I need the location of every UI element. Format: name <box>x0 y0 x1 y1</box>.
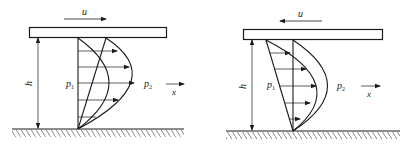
height-label: h <box>23 81 34 86</box>
ground-hatch <box>12 130 184 137</box>
pressure-p2-label: p2 <box>336 80 345 92</box>
couette-linear-profile <box>78 38 106 129</box>
velocity-profile-arrows <box>78 51 134 117</box>
figure-left: u h p1 p2 <box>12 6 184 137</box>
pressure-p1-label: p1 <box>65 78 74 90</box>
diagram-canvas: u h p1 p2 <box>0 0 405 154</box>
figure-right: u h p1 p2 <box>226 8 400 139</box>
combined-velocity-profile <box>78 38 132 129</box>
x-axis-label: x <box>366 89 371 99</box>
pressure-parabola-profile <box>293 40 328 131</box>
velocity-label: u <box>82 6 87 17</box>
height-label: h <box>237 84 248 89</box>
velocity-label: u <box>298 8 303 19</box>
moving-plate <box>244 30 383 40</box>
x-axis-label: x <box>171 87 176 97</box>
pressure-p1-label: p1 <box>266 79 275 91</box>
moving-plate <box>30 28 167 38</box>
ground-hatch <box>226 132 400 139</box>
pressure-p2-label: p2 <box>143 78 152 90</box>
